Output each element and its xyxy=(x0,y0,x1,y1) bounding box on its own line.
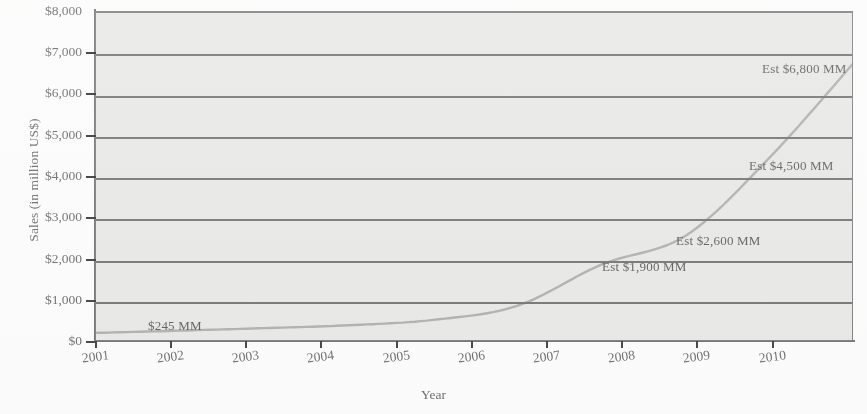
x-axis-tick-label: 2007 xyxy=(532,347,561,366)
x-axis-tick xyxy=(245,341,247,348)
y-axis-tick-label: $3,000 xyxy=(45,209,82,225)
x-axis-tick xyxy=(696,341,698,348)
plot-area xyxy=(95,11,853,341)
x-axis-tick-label: 2001 xyxy=(81,347,110,366)
x-axis-tick-label: 2009 xyxy=(682,347,711,366)
y-axis-tick-label: $8,000 xyxy=(45,3,82,19)
gridline xyxy=(96,96,852,98)
x-axis-tick xyxy=(396,341,398,348)
y-axis-tick-label: $7,000 xyxy=(45,44,82,60)
data-point-label: Est $4,500 MM xyxy=(749,158,834,174)
y-axis-labels: $8,000$7,000$6,000$5,000$4,000$3,000$2,0… xyxy=(0,0,88,414)
y-axis-tick xyxy=(86,135,96,137)
y-axis-tick-label: $0 xyxy=(69,333,83,349)
data-point-label: $245 MM xyxy=(148,318,202,334)
gridline xyxy=(96,54,852,56)
y-axis-tick-label: $2,000 xyxy=(45,251,82,267)
data-point-label: Est $6,800 MM xyxy=(762,61,847,77)
gridline xyxy=(96,178,852,180)
x-axis-tick-label: 2003 xyxy=(231,347,260,366)
y-axis-tick-label: $5,000 xyxy=(45,127,82,143)
x-axis-tick xyxy=(772,341,774,348)
gridline xyxy=(96,261,852,263)
x-axis-tick xyxy=(95,341,97,348)
x-axis-title: Year xyxy=(0,387,867,403)
gridline xyxy=(96,219,852,221)
sales-forecast-chart: Sales (in million US$) $8,000$7,000$6,00… xyxy=(0,0,867,414)
y-axis-tick xyxy=(86,217,96,219)
x-axis-tick-label: 2005 xyxy=(382,347,411,366)
x-axis-tick xyxy=(546,341,548,348)
gridline xyxy=(96,137,852,139)
x-axis-tick-label: 2010 xyxy=(758,347,787,366)
x-axis-tick-label: 2002 xyxy=(156,347,185,366)
y-axis-tick xyxy=(86,93,96,95)
data-point-label: Est $1,900 MM xyxy=(602,259,687,275)
x-axis-tick xyxy=(320,341,322,348)
y-axis-tick-label: $6,000 xyxy=(45,85,82,101)
y-axis-tick-label: $4,000 xyxy=(45,168,82,184)
x-axis-tick xyxy=(471,341,473,348)
x-axis-tick xyxy=(170,341,172,348)
x-axis-tick-label: 2008 xyxy=(607,347,636,366)
y-axis-tick xyxy=(86,176,96,178)
x-axis-tick-label: 2004 xyxy=(306,347,335,366)
y-axis-tick-label: $1,000 xyxy=(45,292,82,308)
gridline xyxy=(96,302,852,304)
x-axis-tick xyxy=(621,341,623,348)
x-axis-tick-label: 2006 xyxy=(457,347,486,366)
y-axis-tick xyxy=(86,300,96,302)
data-point-label: Est $2,600 MM xyxy=(676,233,761,249)
y-axis-tick xyxy=(86,259,96,261)
sales-line-series xyxy=(96,13,853,341)
y-axis-tick xyxy=(86,52,96,54)
